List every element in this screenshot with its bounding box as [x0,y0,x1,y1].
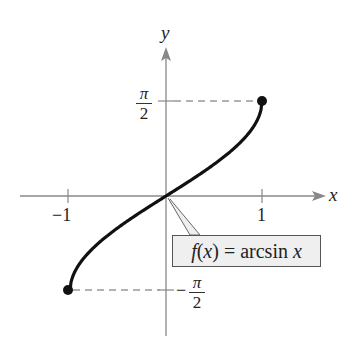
pi-symbol: π [136,85,152,102]
paren-close: ) [212,240,219,262]
y-axis-label: y [161,22,169,44]
callout-pointer [168,198,200,235]
denominator: 2 [136,105,152,122]
f-var: x [203,240,212,262]
x-axis-label: x [329,184,337,206]
tick-label-pi-half: π 2 [136,85,152,122]
endpoint-bottom [63,285,73,295]
tick-label-neg-pi-half: π 2 [189,274,205,311]
tick-label-pos1: 1 [257,205,266,226]
function-label-box: f(x) = arcsin x [172,235,321,267]
endpoint-top [257,96,267,106]
f-eq: = arcsin [219,240,293,262]
denominator: 2 [189,294,205,311]
tick-label-neg1: −1 [52,205,71,226]
pi-symbol: π [189,274,205,291]
f-var2: x [293,240,302,262]
minus-sign: − [176,280,186,301]
